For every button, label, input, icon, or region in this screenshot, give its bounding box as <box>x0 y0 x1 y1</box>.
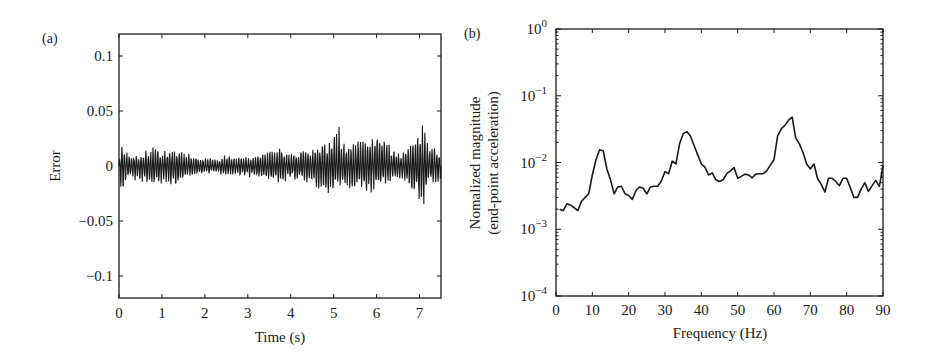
x-tick-label: 30 <box>658 302 673 318</box>
error-signal-path <box>119 125 441 203</box>
magnitude-spectrum-line <box>560 117 883 211</box>
y-axis-ticks-b: 10010−110−210−310−4 <box>520 17 883 304</box>
y-tick-label: 10−1 <box>520 84 547 104</box>
y-tick-label: −0.05 <box>78 213 113 229</box>
y-tick-label: 0 <box>106 158 114 174</box>
y-tick-label: 0.1 <box>94 48 113 64</box>
y-tick-label: 100 <box>527 17 548 37</box>
magnitude-path <box>560 117 883 211</box>
y-axis-label-a: Error <box>47 150 63 182</box>
x-tick-label: 2 <box>201 305 209 321</box>
y-tick-label: 10−2 <box>520 151 547 171</box>
y-tick-label: 10−3 <box>520 217 547 237</box>
y-tick-label: 10−4 <box>520 284 547 304</box>
y-tick-label: 0.05 <box>87 103 113 119</box>
x-tick-label: 10 <box>585 302 600 318</box>
figure: (a) 01234567 0.10.050−0.05−0.1 Time (s) … <box>0 0 927 361</box>
x-tick-label: 3 <box>244 305 252 321</box>
x-tick-label: 70 <box>803 302 818 318</box>
x-tick-label: 80 <box>839 302 854 318</box>
panel-label-b: (b) <box>464 26 481 42</box>
x-tick-label: 50 <box>730 302 745 318</box>
x-tick-label: 4 <box>287 305 295 321</box>
y-axis-label-b-line1: Nomalized magnitude <box>467 96 483 229</box>
x-tick-label: 5 <box>330 305 338 321</box>
panel-label-a: (a) <box>42 31 58 47</box>
x-tick-label: 0 <box>115 305 123 321</box>
x-axis-label-b: Frequency (Hz) <box>673 325 768 342</box>
chart-panel-b: (b) 0102030405060708090 10010−110−210−31… <box>464 17 891 342</box>
x-tick-label: 6 <box>373 305 381 321</box>
x-tick-label: 0 <box>552 302 560 318</box>
y-axis-label-b-line2: (end-point acceleration) <box>485 91 502 235</box>
x-tick-label: 7 <box>416 305 424 321</box>
chart-panel-a: (a) 01234567 0.10.050−0.05−0.1 Time (s) … <box>42 31 441 346</box>
x-tick-label: 40 <box>694 302 709 318</box>
x-tick-label: 60 <box>767 302 782 318</box>
x-axis-label-a: Time (s) <box>255 329 306 346</box>
x-tick-label: 20 <box>621 302 636 318</box>
x-axis-ticks-b: 0102030405060708090 <box>552 29 890 318</box>
x-tick-label: 90 <box>876 302 891 318</box>
x-tick-label: 1 <box>158 305 166 321</box>
error-signal-line <box>119 125 441 203</box>
y-tick-label: −0.1 <box>86 268 113 284</box>
